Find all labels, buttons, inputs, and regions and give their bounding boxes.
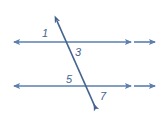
angle-label-5: 5 (66, 73, 73, 85)
angle-label-7: 7 (100, 90, 107, 102)
geometry-diagram: 1 3 5 7 (0, 0, 165, 124)
geometry-canvas: 1 3 5 7 (0, 0, 165, 124)
angle-label-1: 1 (42, 27, 48, 39)
transversal-line (57, 21, 96, 109)
angle-label-3: 3 (75, 46, 82, 58)
